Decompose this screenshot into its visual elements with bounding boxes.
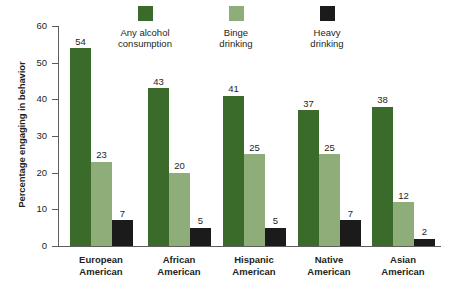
legend-swatch-any-alcohol-consumption [138, 6, 153, 21]
bar[interactable] [414, 239, 435, 246]
bar[interactable] [223, 96, 244, 246]
legend-swatch-binge-drinking [229, 6, 244, 21]
y-tick-0 [52, 246, 58, 247]
bar-column: 2 [414, 26, 435, 246]
y-tick-label-0: 0 [17, 241, 47, 251]
bar-column: 25 [244, 26, 265, 246]
bar-column: 20 [169, 26, 190, 246]
bar[interactable] [244, 154, 265, 246]
y-tick-label-60: 60 [17, 21, 47, 31]
bar[interactable] [169, 173, 190, 246]
y-tick-label-40: 40 [17, 94, 47, 104]
bar-value-label: 5 [259, 216, 293, 226]
y-tick-60 [52, 26, 58, 27]
bar[interactable] [91, 162, 112, 246]
bar[interactable] [298, 110, 319, 246]
y-tick-label-30: 30 [17, 131, 47, 141]
bar[interactable] [112, 220, 133, 246]
y-tick-label-50: 50 [17, 58, 47, 68]
y-tick-50 [52, 63, 58, 64]
bar-value-label: 7 [334, 209, 368, 219]
bar[interactable] [265, 228, 286, 246]
x-axis-label-asian-american: Asian American [348, 254, 451, 277]
bar-column: 5 [190, 26, 211, 246]
bar-column: 7 [340, 26, 361, 246]
y-tick-30 [52, 136, 58, 137]
y-tick-40 [52, 99, 58, 100]
y-tick-20 [52, 173, 58, 174]
bar[interactable] [70, 48, 91, 246]
x-axis-line [58, 246, 441, 247]
bar[interactable] [340, 220, 361, 246]
y-tick-label-20: 20 [17, 168, 47, 178]
bar-column: 38 [372, 26, 393, 246]
bar-column: 7 [112, 26, 133, 246]
bar-group: 54237 [70, 26, 133, 246]
bar-column: 37 [298, 26, 319, 246]
legend-swatch-heavy-drinking [320, 6, 335, 21]
bar[interactable] [319, 154, 340, 246]
bar-group: 41255 [223, 26, 286, 246]
bar-column: 54 [70, 26, 91, 246]
bar[interactable] [372, 107, 393, 246]
bar-value-label: 2 [408, 227, 442, 237]
bar-column: 43 [148, 26, 169, 246]
bar-value-label: 5 [184, 216, 218, 226]
bar-value-label: 7 [106, 209, 140, 219]
bar-column: 12 [393, 26, 414, 246]
bar[interactable] [190, 228, 211, 246]
bar-chart: Any alcohol consumption Binge drinking H… [0, 0, 451, 292]
y-axis-line [58, 26, 59, 247]
bar-group: 43205 [148, 26, 211, 246]
bar[interactable] [393, 202, 414, 246]
y-tick-label-10: 10 [17, 204, 47, 214]
bar-column: 5 [265, 26, 286, 246]
bar-group: 38122 [372, 26, 435, 246]
bar-column: 41 [223, 26, 244, 246]
bar-group: 37257 [298, 26, 361, 246]
y-tick-10 [52, 209, 58, 210]
